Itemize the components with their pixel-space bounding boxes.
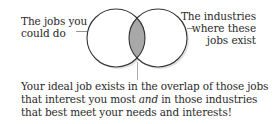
right-set-label: The industries where these jobs exist (181, 10, 256, 46)
caption-line: Your ideal job exists in the overlap of … (21, 80, 268, 93)
overlap-caption: Your ideal job exists in the overlap of … (21, 80, 268, 119)
left-set-label-line: The jobs you (21, 15, 87, 27)
caption-text: in those industries (158, 93, 257, 105)
right-set-label-line: The industries (181, 10, 256, 22)
right-set-label-line: where these (181, 22, 256, 34)
left-set-label-line: could do (21, 27, 87, 39)
caption-line: that interest you most and in those indu… (21, 93, 268, 106)
right-set-label-line: jobs exist (181, 34, 256, 46)
caption-line: that best meet your needs and interests! (21, 106, 268, 119)
caption-text: that interest you most (21, 93, 139, 105)
left-set-label: The jobs you could do (21, 15, 87, 39)
caption-emphasis: and (139, 93, 158, 105)
